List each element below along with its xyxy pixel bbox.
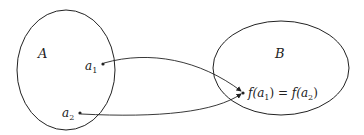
set-b-label: B — [274, 46, 285, 61]
element-a1-label: a1 — [85, 59, 97, 75]
set-a-label: A — [37, 46, 47, 61]
image-point — [241, 91, 244, 94]
element-a2-label: a2 — [62, 106, 74, 122]
image-label: f(a1) = f(a2) — [247, 86, 318, 102]
function-diagram: A B a1 a2 f(a1) = f(a2) — [0, 0, 364, 135]
arrow-a1-to-image — [104, 57, 241, 91]
set-b-ellipse — [213, 21, 349, 115]
arrow-a2-to-image — [81, 94, 241, 115]
